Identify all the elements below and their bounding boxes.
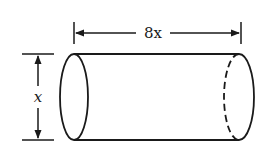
cylinder-back-face-hidden bbox=[224, 54, 239, 140]
arrowhead-up-icon bbox=[35, 55, 42, 64]
arrowhead-left-icon bbox=[75, 30, 84, 37]
length-label: 8x bbox=[144, 24, 163, 42]
cylinder-back-face-visible bbox=[239, 54, 254, 140]
cylinder bbox=[60, 54, 254, 140]
cylinder-diagram: 8x x bbox=[0, 0, 274, 150]
diameter-label: x bbox=[34, 88, 43, 106]
cylinder-front-face bbox=[60, 54, 88, 140]
arrowhead-right-icon bbox=[231, 30, 240, 37]
arrowhead-down-icon bbox=[35, 130, 42, 139]
